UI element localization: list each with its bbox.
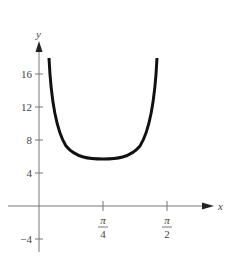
x-axis-arrow-icon	[202, 203, 214, 210]
y-tick-label-4: 4	[27, 167, 33, 179]
curve-line	[49, 58, 157, 159]
y-axis-arrow-icon	[36, 41, 43, 52]
y-tick-label-8: 8	[27, 134, 33, 146]
y-tick-label-16: 16	[21, 68, 33, 80]
svg-text:π: π	[100, 214, 106, 226]
x-axis-label: x	[217, 200, 223, 212]
x-tick-label-pi-over-4: π 4	[98, 214, 108, 240]
svg-text:2: 2	[164, 228, 170, 240]
y-axis-label: y	[35, 28, 41, 40]
x-tick-label-pi-over-2: π 2	[162, 214, 172, 240]
svg-text:4: 4	[100, 228, 106, 240]
y-tick-label-neg4: −4	[20, 233, 32, 245]
y-tick-label-12: 12	[21, 101, 32, 113]
chart: y x 16 12 8 4 −4 π 4 π 2	[0, 0, 225, 265]
svg-text:π: π	[164, 214, 170, 226]
